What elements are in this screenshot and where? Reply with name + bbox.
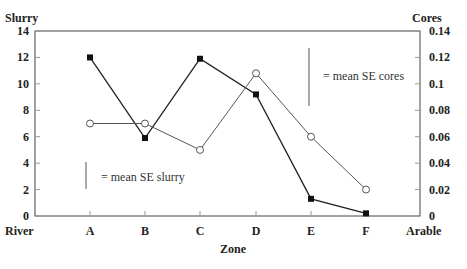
circle-marker [87,120,94,127]
x-tick-label: A [86,224,95,238]
square-marker [253,91,259,97]
x-tick-label: B [141,224,149,238]
circle-marker [308,133,315,140]
square-marker [308,196,314,202]
left-tick-label: 6 [23,130,29,144]
right-tick-label: 0.04 [429,156,450,170]
left-tick-label: 12 [17,50,29,64]
x-tick-label: C [196,224,205,238]
x-label-river: River [5,224,34,238]
left-tick-label: 2 [23,183,29,197]
right-tick-label: 0.02 [429,183,450,197]
x-tick-label: D [252,224,261,238]
right-tick-label: 0.06 [429,130,450,144]
x-tick-label: E [307,224,315,238]
right-tick-label: 0.08 [429,103,450,117]
left-tick-label: 0 [23,209,29,223]
circle-marker [363,186,370,193]
left-tick-label: 4 [23,156,29,170]
x-label-arable: Arable [406,224,442,238]
right-tick-label: 0.12 [429,50,450,64]
square-marker [197,56,203,62]
circle-marker [253,70,260,77]
ticks: 0246810121400.020.040.060.080.10.120.14A… [17,24,450,238]
left-tick-label: 14 [17,24,29,38]
square-marker [363,210,369,216]
right-tick-label: 0.1 [429,77,444,91]
circle-marker [142,120,149,127]
square-marker [87,54,93,60]
x-axis-title: Zone [220,242,247,256]
right-tick-label: 0 [429,209,435,223]
left-axis-title: Slurry [5,11,38,25]
x-tick-label: F [362,224,369,238]
right-tick-label: 0.14 [429,24,450,38]
right-axis-title: Cores [412,11,442,25]
chart: 0246810121400.020.040.060.080.10.120.14A… [0,0,467,269]
circle-marker [197,146,204,153]
square-marker [142,135,148,141]
left-tick-label: 8 [23,103,29,117]
se-slurry-legend: = mean SE slurry [101,170,185,184]
left-tick-label: 10 [17,77,29,91]
se-cores-legend: = mean SE cores [323,69,404,83]
